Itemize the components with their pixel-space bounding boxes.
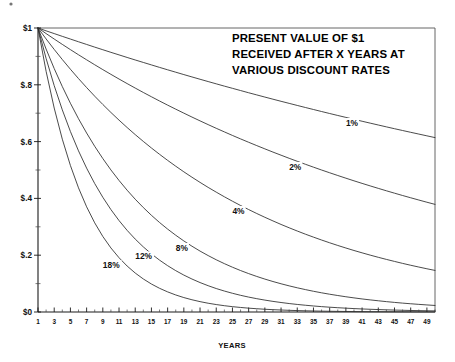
series-label-2pct: 2% — [289, 162, 302, 172]
y-axis-tick-label: $1 — [23, 24, 33, 33]
x-axis-tick-label: 17 — [164, 318, 172, 325]
x-axis-tick-label: 1 — [36, 318, 40, 325]
x-axis-tick-label: 49 — [423, 318, 431, 325]
x-axis-tick-label: 29 — [261, 318, 269, 325]
series-label-12pct: 12% — [135, 251, 152, 261]
x-axis-tick-label: 15 — [148, 318, 156, 325]
x-axis-tick-label: 11 — [116, 318, 123, 325]
x-axis-tick-label: 41 — [359, 318, 367, 325]
chart-title-line: RECEIVED AFTER X YEARS AT — [232, 48, 405, 60]
x-axis-tick-label: 7 — [85, 318, 89, 325]
x-axis-tick-label: 5 — [69, 318, 73, 325]
y-axis-tick-label: $.4 — [21, 194, 33, 203]
series-label-18pct: 18% — [103, 260, 120, 270]
x-axis-tick-label: 9 — [101, 318, 105, 325]
y-axis-tick-label: $.8 — [21, 81, 33, 90]
x-axis-tick-label: 33 — [294, 318, 302, 325]
x-axis-tick-label: 27 — [245, 318, 253, 325]
y-axis-tick-label: $.2 — [21, 251, 33, 260]
x-axis-tick-label: 39 — [342, 318, 350, 325]
chart-title-line: VARIOUS DISCOUNT RATES — [232, 64, 390, 76]
x-axis-tick-label: 43 — [375, 318, 383, 325]
x-axis-tick-label: 35 — [310, 318, 318, 325]
x-axis-tick-label: 37 — [326, 318, 334, 325]
x-axis-tick-label: 13 — [132, 318, 140, 325]
x-axis-tick-label: 21 — [196, 318, 204, 325]
y-axis-tick-label: $.6 — [21, 138, 33, 147]
present-value-chart: $0$.2$.4$.6$.8$1 13579111315171921232527… — [0, 0, 455, 362]
series-label-8pct: 8% — [176, 243, 189, 253]
x-axis-tick-label: 19 — [180, 318, 188, 325]
series-label-4pct: 4% — [232, 206, 245, 216]
x-axis-tick-label: 47 — [407, 318, 415, 325]
series-label-1pct: 1% — [346, 118, 359, 128]
x-axis-tick-label: 25 — [229, 318, 237, 325]
y-axis-tick-label: $0 — [23, 308, 33, 317]
x-axis-tick-label: 45 — [391, 318, 399, 325]
chart-title-line: PRESENT VALUE OF $1 — [232, 32, 365, 44]
x-axis-tick-label: 31 — [278, 318, 286, 325]
scan-speck — [9, 2, 12, 5]
x-axis-title: YEARS — [218, 341, 246, 350]
x-axis-tick-label: 3 — [52, 318, 56, 325]
x-axis-tick-label: 23 — [213, 318, 221, 325]
chart-canvas: $0$.2$.4$.6$.8$1 13579111315171921232527… — [0, 0, 455, 362]
